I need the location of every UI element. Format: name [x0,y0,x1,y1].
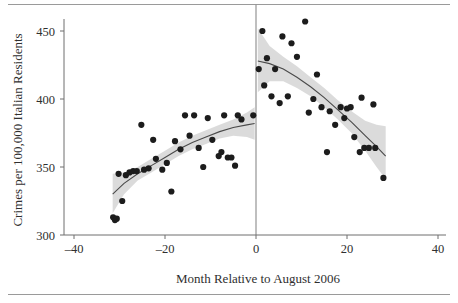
data-point [200,164,206,170]
data-point [341,115,347,121]
scatter-plot: 300350400450–40–2002040 Crimes per 100,0… [0,0,458,303]
data-point [191,112,197,118]
data-point [351,134,357,140]
data-point [306,110,312,116]
x-tick-label: 40 [432,242,445,256]
data-point [256,66,262,72]
data-point [338,104,344,110]
data-point [205,115,211,121]
data-point [172,138,178,144]
y-axis-title: Crimes per 100,000 Italian Residents [10,33,25,226]
data-point [268,93,274,99]
y-tick-label: 350 [36,161,55,175]
x-tick-label: –40 [64,242,84,256]
data-point [221,112,227,118]
data-point [327,108,333,114]
y-tick-label: 300 [36,229,55,243]
data-point [164,160,170,166]
confidence-band-fit-left [113,107,255,213]
data-point [314,71,320,77]
data-point [218,149,224,155]
data-point [288,40,294,46]
x-tick-label: –20 [155,242,175,256]
data-point [358,95,364,101]
data-point [159,167,165,173]
data-point [115,171,121,177]
data-point [134,168,140,174]
data-point [168,188,174,194]
data-point [372,145,378,151]
figure-container: 300350400450–40–2002040 Crimes per 100,0… [0,0,458,303]
data-point [310,96,316,102]
data-point [366,145,372,151]
data-point [348,104,354,110]
data-point [138,122,144,128]
data-point [272,66,278,72]
data-point [302,18,308,24]
data-point [232,163,238,169]
data-point [196,145,202,151]
data-point [114,216,120,222]
data-point [285,93,291,99]
x-tick-label: 20 [341,242,354,256]
data-point [277,100,283,106]
data-point [324,149,330,155]
data-point [259,28,265,34]
data-point [238,116,244,122]
x-tick-label: 0 [253,242,259,256]
data-point [177,146,183,152]
data-point [119,198,125,204]
data-point [332,122,338,128]
y-tick-label: 400 [36,93,55,107]
data-point [153,156,159,162]
data-point [294,54,300,60]
data-point [209,137,215,143]
data-point [264,55,270,61]
data-point [150,137,156,143]
data-point [186,133,192,139]
data-point [261,82,267,88]
data-point [250,112,256,118]
data-point [279,33,285,39]
data-point [370,101,376,107]
y-tick-label: 450 [36,25,55,39]
data-point [182,112,188,118]
data-point [380,175,386,181]
data-point [146,165,152,171]
data-point [228,154,234,160]
x-axis-title: Month Relative to August 2006 [176,271,340,286]
data-point [318,104,324,110]
